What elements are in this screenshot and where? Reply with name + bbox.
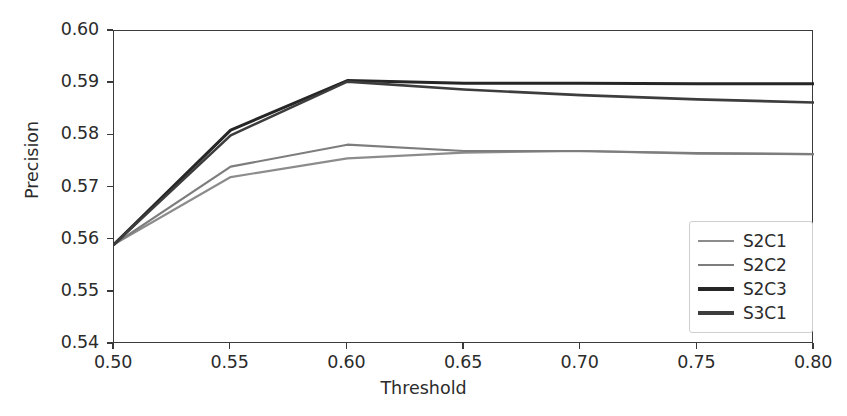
x-tick-mark [812,343,814,349]
legend-swatch-line-icon [698,287,734,291]
chart-figure: 0.540.550.560.570.580.590.60 0.500.550.6… [0,0,847,416]
x-tick-mark [462,343,464,349]
y-tick-label: 0.57 [0,176,99,196]
y-tick-mark [107,186,113,188]
y-tick-mark [107,81,113,83]
y-tick-mark [107,238,113,240]
y-tick-label: 0.54 [0,332,99,352]
legend-item-s2c2[interactable]: S2C2 [698,253,803,277]
y-tick-mark [107,29,113,31]
series-line-s2c3 [114,81,814,245]
y-tick-label: 0.55 [0,280,99,300]
y-tick-label: 0.58 [0,123,99,143]
x-tick-mark [346,343,348,349]
x-tick-label: 0.50 [68,352,158,372]
legend-swatch-line-icon [698,264,734,267]
x-tick-label: 0.80 [768,352,847,372]
legend-swatch-line-icon [698,311,734,314]
x-tick-mark [696,343,698,349]
y-tick-label: 0.59 [0,71,99,91]
x-axis-label: Threshold [0,378,847,398]
chart-legend: S2C1S2C2S2C3S3C1 [689,221,813,333]
legend-label: S2C1 [743,231,787,251]
x-tick-mark [112,343,114,349]
legend-swatch-line-icon [698,240,734,243]
legend-label: S3C1 [743,303,787,323]
x-tick-mark [229,343,231,349]
x-tick-label: 0.65 [418,352,508,372]
x-tick-label: 0.55 [185,352,275,372]
legend-item-s2c3[interactable]: S2C3 [698,277,803,301]
y-tick-label: 0.60 [0,19,99,39]
y-tick-label: 0.56 [0,228,99,248]
x-tick-label: 0.75 [651,352,741,372]
legend-item-s2c1[interactable]: S2C1 [698,229,803,253]
y-axis-label: Precision [22,100,42,220]
legend-label: S2C3 [743,279,787,299]
y-tick-mark [107,134,113,136]
legend-item-s3c1[interactable]: S3C1 [698,301,803,325]
legend-label: S2C2 [743,255,787,275]
x-tick-label: 0.60 [301,352,391,372]
x-tick-label: 0.70 [535,352,625,372]
x-tick-mark [579,343,581,349]
series-line-s3c1 [114,82,814,245]
y-tick-mark [107,290,113,292]
